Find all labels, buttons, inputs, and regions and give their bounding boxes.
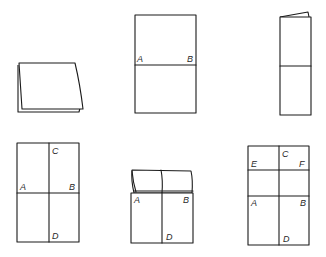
label-d: D <box>166 232 173 242</box>
figure-6-multi-creased-sheet: C E F A B D <box>248 146 309 245</box>
label-a: A <box>136 54 143 64</box>
top-flap <box>280 12 309 17</box>
label-a: A <box>133 195 140 205</box>
label-a: A <box>250 198 257 208</box>
figure-5-top-folded-down: A B D <box>131 170 193 243</box>
label-c: C <box>282 149 289 159</box>
figure-1-folded-sheet <box>18 63 83 112</box>
label-b: B <box>187 54 193 64</box>
paper-folding-diagram: A B C A B D A B D C E F A B <box>0 0 326 257</box>
label-b: B <box>69 182 75 192</box>
figure-2-creased-sheet: A B <box>135 15 196 113</box>
sheet-outline <box>135 15 196 113</box>
figure-4-quartered-sheet: C A B D <box>17 143 79 242</box>
label-b: B <box>183 195 189 205</box>
label-d: D <box>283 234 290 244</box>
label-c: C <box>52 146 59 156</box>
label-a: A <box>19 182 26 192</box>
label-f: F <box>299 159 305 169</box>
label-d: D <box>52 231 59 241</box>
front-sheet <box>19 63 83 109</box>
label-e: E <box>251 159 258 169</box>
figure-3-folded-lengthwise <box>280 12 311 115</box>
label-b: B <box>300 198 306 208</box>
